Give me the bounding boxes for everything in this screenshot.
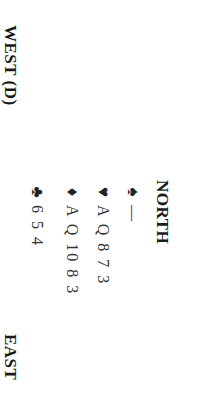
east-label: EAST [2,334,19,380]
bridge-diagram: NORTH ♠ — ♥ A Q 8 7 3 ♦ A Q 10 8 3 ♣ 6 5… [0,0,208,398]
heart-icon: ♥ [95,184,111,200]
north-spades-row: ♠ — [125,184,141,223]
north-clubs-cards: 6 5 4 [29,205,45,247]
north-hearts-row: ♥ A Q 8 7 3 [95,184,111,285]
north-label: NORTH [154,180,171,244]
club-icon: ♣ [29,184,45,200]
north-diamonds-row: ♦ A Q 10 8 3 [64,184,80,295]
north-hearts-cards: A Q 8 7 3 [95,205,111,285]
north-spades-cards: — [125,205,141,223]
north-diamonds-cards: A Q 10 8 3 [64,205,80,295]
west-label: WEST (D) [2,25,19,106]
north-clubs-row: ♣ 6 5 4 [29,184,45,247]
spade-icon: ♠ [125,184,141,200]
diamond-icon: ♦ [64,184,80,200]
